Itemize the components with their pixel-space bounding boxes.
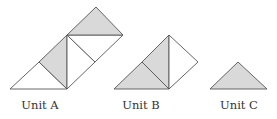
- unit-c-shaded-triangle: [210, 62, 267, 89]
- unit-c-label: Unit C: [214, 98, 264, 112]
- unit-b-shape: [114, 35, 198, 89]
- unit-b-right-white-triangle: [169, 35, 198, 89]
- unit-b-label: Unit B: [116, 98, 166, 112]
- unit-a-shape: [10, 7, 123, 89]
- unit-a-top-shaded-triangle: [67, 7, 123, 35]
- unit-a-label: Unit A: [15, 98, 65, 112]
- unit-c-shape: [210, 62, 267, 89]
